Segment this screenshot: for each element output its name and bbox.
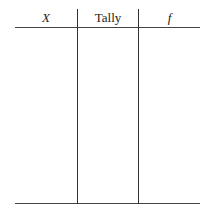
column-header-tally: Tally bbox=[78, 11, 138, 24]
column-divider-1 bbox=[77, 9, 78, 204]
column-header-f: f bbox=[139, 11, 200, 24]
column-divider-2 bbox=[138, 9, 139, 204]
bottom-rule bbox=[15, 203, 200, 204]
header-rule bbox=[15, 27, 200, 28]
column-header-x: X bbox=[15, 11, 77, 24]
